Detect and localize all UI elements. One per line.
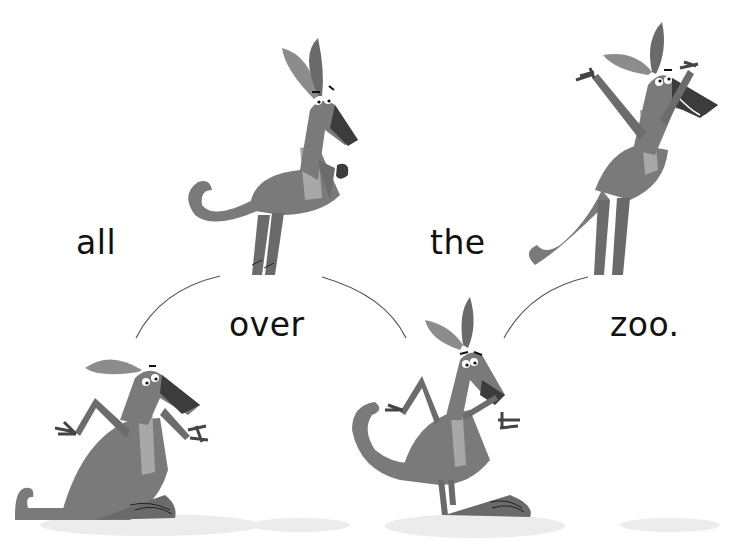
picture-book-page: all over the zoo. [0, 0, 748, 541]
kangaroo-illustration [0, 0, 748, 541]
kangaroo-standing-center [352, 297, 531, 517]
kangaroo-sitting-left [15, 359, 208, 520]
story-word-over: over [229, 308, 305, 341]
story-word-the: the [430, 226, 486, 259]
hop-arcs [136, 276, 588, 338]
story-word-zoo: zoo. [610, 308, 680, 341]
kangaroo-jumping-center [188, 38, 358, 275]
story-word-all: all [76, 226, 116, 259]
kangaroo-jumping-right [529, 22, 718, 275]
